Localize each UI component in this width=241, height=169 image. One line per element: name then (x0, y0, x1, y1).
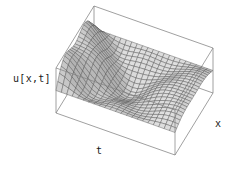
surface-plot-figure: u[x,t] t x (0, 0, 241, 169)
surface-mesh (56, 21, 213, 133)
axis-label-u: u[x,t] (13, 73, 51, 84)
surface-plot-canvas (0, 0, 241, 169)
axis-label-t: t (96, 145, 102, 156)
axis-label-x: x (215, 118, 221, 129)
